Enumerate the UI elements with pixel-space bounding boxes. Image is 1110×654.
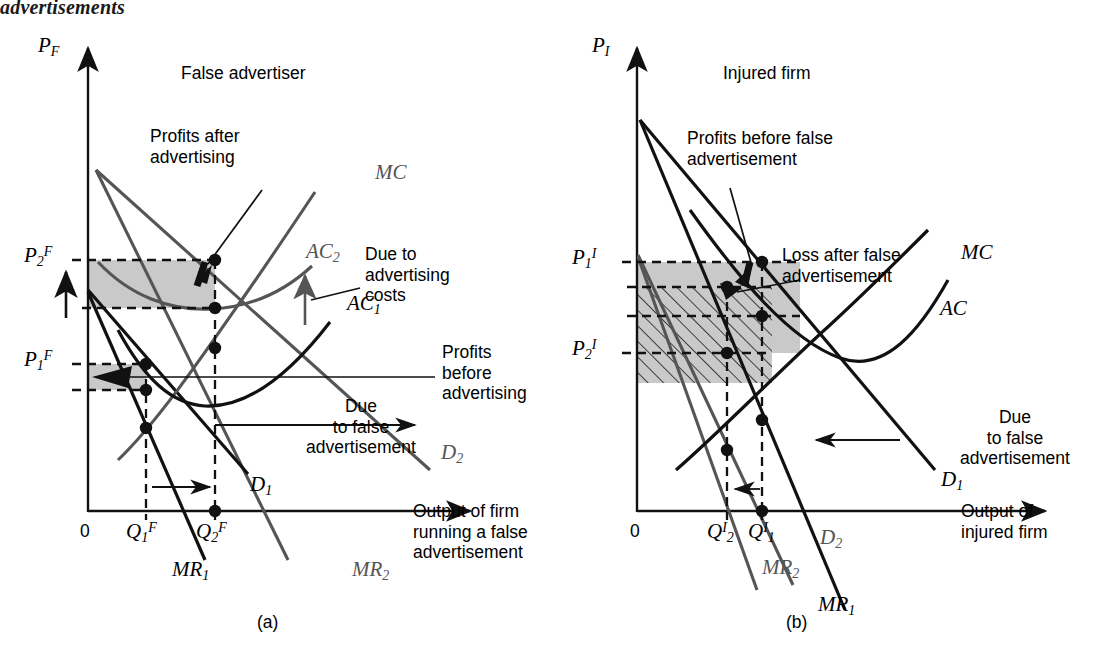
curve-label-mc-b: MC — [961, 240, 993, 265]
panel-title-b: Injured firm — [723, 63, 811, 84]
leader-profits-after-a — [208, 190, 262, 264]
point-ac1q1-a — [140, 384, 152, 396]
annotation-profits-before-false-advertisement-b: Profits before false advertisement — [687, 128, 833, 169]
curve-label-ac2-a: AC2 — [306, 239, 340, 266]
point-acq1-b — [756, 310, 768, 322]
point-q2-axis-a — [209, 505, 221, 517]
panel-label-b: (b) — [786, 612, 807, 633]
price-tick-p2-a: P2F — [24, 243, 52, 270]
point-ac2q2-a — [209, 302, 221, 314]
curve-label-mr2-b: MR2 — [762, 555, 799, 582]
y-axis-label-b: PI — [592, 33, 610, 60]
point-p1q1-a — [140, 358, 152, 370]
price-tick-p1-a: P1F — [24, 347, 52, 374]
point-q1-axis-b — [756, 505, 768, 517]
curve-label-mc-a: MC — [375, 160, 407, 185]
annotation-due-to-advertising-costs-a: Due to advertising costs — [365, 244, 450, 306]
curve-label-mr1-b: MR1 — [818, 592, 855, 619]
origin-label-a: 0 — [80, 521, 90, 542]
x-axis-label-a: Output of firm running a false advertise… — [413, 501, 528, 563]
curve-label-d2-b: D2 — [820, 525, 842, 552]
price-tick-p2-b: P2I — [572, 336, 597, 363]
quantity-tick-q2-a: Q2F — [196, 519, 227, 546]
curve-label-d2-a: D2 — [441, 440, 463, 467]
quantity-tick-q2-b: QI2 — [707, 519, 734, 546]
x-axis-label-b: Output of injured firm — [961, 501, 1048, 542]
shaded-loss-hatched-b — [637, 287, 772, 383]
annotation-loss-after-false-advertisement-b: Loss after false advertisement — [782, 245, 901, 286]
point-p1q1-b — [756, 256, 768, 268]
origin-label-b: 0 — [630, 521, 640, 542]
curve-label-mr1-a: MR1 — [172, 557, 209, 584]
point-mr2mc-a — [209, 342, 221, 354]
panel-title-a: False advertiser — [181, 63, 306, 84]
quantity-tick-q1-b: QI1 — [748, 519, 775, 546]
point-mr2mc-b — [721, 444, 733, 456]
economics-diagram — [0, 0, 1110, 654]
curve-label-ac-b: AC — [940, 296, 967, 321]
panel-label-a: (a) — [257, 612, 278, 633]
leader-profits-before-b — [730, 188, 752, 266]
y-axis-label-a: PF — [38, 33, 59, 60]
annotation-due-to-false-advertisement-a: Due to false advertisement — [276, 396, 446, 458]
curve-label-d1-b: D1 — [941, 467, 963, 494]
price-tick-p1-b: P1I — [572, 245, 597, 272]
annotation-profits-after-advertising-a: Profits after advertising — [150, 126, 239, 167]
point-mr1mc-b — [756, 414, 768, 426]
point-p2q2-b — [721, 347, 733, 359]
figure-canvas: advertisements — [0, 0, 1110, 654]
curve-label-mr2-a: MR2 — [352, 557, 389, 584]
annotation-due-to-false-advertisement-b: Due to false advertisement — [935, 407, 1095, 469]
curve-label-d1-a: D1 — [250, 472, 272, 499]
annotation-profits-before-advertising-a: Profits before advertising — [442, 342, 527, 404]
quantity-tick-q1-a: Q1F — [126, 519, 157, 546]
point-mr1mc-a — [140, 422, 152, 434]
